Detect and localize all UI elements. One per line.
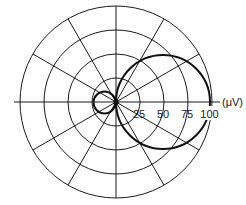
spoke-150: [33, 54, 116, 102]
tick-label-50: 50: [157, 108, 169, 120]
origin-dot: [114, 100, 119, 105]
polar-chart: 25 50 75 100 (μV): [0, 0, 246, 205]
tick-label-25: 25: [133, 108, 145, 120]
radial-tick-labels: 25 50 75 100: [133, 108, 219, 120]
polar-plot-svg: 25 50 75 100 (μV): [0, 0, 246, 205]
tick-label-100: 100: [200, 108, 218, 120]
spoke-210: [33, 102, 116, 150]
spoke-240: [68, 102, 116, 185]
spoke-120: [68, 19, 116, 102]
tick-label-75: 75: [181, 108, 193, 120]
unit-label: (μV): [222, 96, 243, 108]
